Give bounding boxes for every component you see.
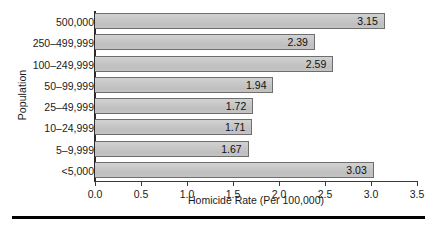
category-label: 250–499,999 [33,33,94,53]
x-tick [279,181,280,186]
category-label: <5,000 [62,161,94,181]
category-label: 25–49,999 [44,97,94,117]
bar-value-label: 1.67 [221,142,241,156]
x-tick [371,181,372,186]
bar: 1.67 [95,141,249,157]
bar-value-label: 3.03 [346,163,366,177]
plot-area: 3.152.392.591.941.721.711.673.03 0.00.51… [95,11,417,181]
x-tick [141,181,142,186]
bar-value-label: 1.94 [246,78,266,92]
bar: 1.71 [95,119,252,135]
category-label: 10–24,999 [44,118,94,138]
y-axis-title: Population [14,0,30,190]
bar-row: 1.71 [95,117,417,138]
bar: 1.72 [95,98,253,114]
category-label: 50–99,999 [44,76,94,96]
bar: 3.15 [95,13,385,29]
bar: 1.94 [95,77,273,93]
bar-row: 2.39 [95,32,417,53]
bar-row: 2.59 [95,54,417,75]
bar-value-label: 1.71 [225,120,245,134]
bar-value-label: 3.15 [357,14,377,28]
bar-value-label: 2.59 [306,57,326,71]
x-axis-title: Homicide Rate (Per 100,000) [95,194,417,206]
bar: 2.39 [95,34,315,50]
x-tick [325,181,326,186]
bar: 3.03 [95,162,374,178]
bar-row: 1.67 [95,139,417,160]
bar-value-label: 2.39 [287,35,307,49]
x-axis-line [94,181,417,182]
bar-row: 3.15 [95,11,417,32]
x-tick [95,181,96,186]
bar: 2.59 [95,56,333,72]
category-label: 5–9,999 [56,140,94,160]
bar-value-label: 1.72 [226,99,246,113]
x-tick [233,181,234,186]
bar-row: 3.03 [95,160,417,181]
category-label: 100–249,999 [33,55,94,75]
category-label: 500,000 [56,12,94,32]
x-tick [417,181,418,186]
chart-figure: Population 3.152.392.591.941.721.711.673… [0,0,435,232]
bar-row: 1.72 [95,96,417,117]
bottom-rule [12,216,425,219]
x-tick [187,181,188,186]
bar-row: 1.94 [95,75,417,96]
